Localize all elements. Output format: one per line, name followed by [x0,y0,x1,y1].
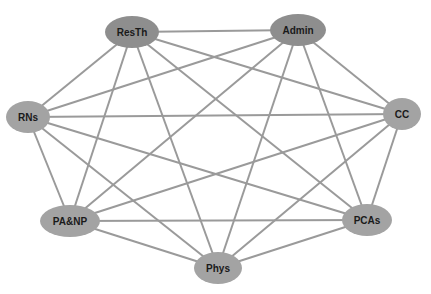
node-cc: CC [383,98,421,130]
edge-rns-cc [28,114,402,117]
node-panp: PA&NP [40,205,100,237]
node-label: Admin [282,25,313,36]
edge-cc-panp [70,114,402,221]
node-phys: Phys [194,252,242,284]
edge-panp-pcas [70,220,367,221]
edge-cc-phys [218,114,402,268]
node-label: RNs [18,112,38,123]
node-resth: ResTh [105,16,159,48]
node-label: Phys [206,263,230,274]
node-pcas: PCAs [342,204,392,236]
node-label: PA&NP [53,216,88,227]
network-diagram: ResThAdminRNsCCPA&NPPCAsPhys [0,0,431,294]
node-label: ResTh [117,27,148,38]
node-admin: Admin [270,14,326,46]
node-label: CC [395,109,409,120]
edge-pcas-phys [218,220,367,268]
edge-admin-phys [218,30,298,268]
edge-rns-pcas [28,117,367,220]
edge-admin-panp [70,30,298,221]
edge-resth-cc [132,32,402,114]
node-label: PCAs [354,215,381,226]
node-rns: RNs [6,101,50,133]
edge-admin-rns [28,30,298,117]
